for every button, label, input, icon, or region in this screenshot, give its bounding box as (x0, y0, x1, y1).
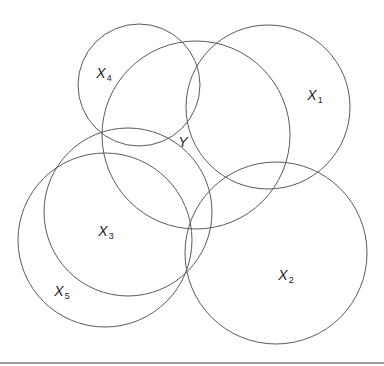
label-main: X (98, 223, 107, 239)
label-subscript: 5 (65, 291, 70, 301)
label-x4: X4 (96, 66, 111, 83)
label-subscript: 2 (289, 275, 294, 285)
circle-x2 (185, 162, 367, 344)
label-x1: X1 (307, 88, 322, 105)
label-main: X (54, 283, 63, 299)
label-subscript: 3 (109, 231, 114, 241)
label-subscript: 1 (318, 95, 323, 105)
circle-diagram (0, 0, 384, 366)
bottom-divider (0, 362, 384, 364)
label-y: Y (178, 135, 187, 149)
label-main: X (307, 87, 316, 103)
label-x3: X3 (98, 224, 113, 241)
label-subscript: 4 (107, 73, 112, 83)
circle-y (102, 41, 290, 229)
label-main: X (96, 65, 105, 81)
label-x5: X5 (54, 284, 69, 301)
label-main: X (278, 267, 287, 283)
circle-x1 (186, 25, 350, 189)
label-main: Y (178, 134, 187, 150)
label-x2: X2 (278, 268, 293, 285)
